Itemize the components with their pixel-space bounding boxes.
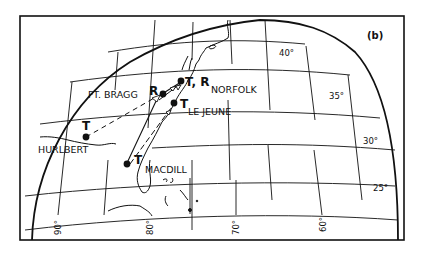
hurlbert-marker-label: T: [82, 119, 91, 133]
lon-70-label: 70°: [231, 220, 241, 235]
hurlbert-label: HURLBERT: [38, 144, 88, 155]
lat-30-label: 30°: [363, 136, 378, 146]
macdill-marker-label: T: [134, 153, 143, 167]
lon-90-label: 90°: [53, 220, 63, 235]
le-jeune-label: LE JEUNE: [188, 106, 231, 117]
marker-macdill: [124, 161, 131, 168]
lon-60-label: 60°: [318, 217, 328, 232]
marker-hurlbert: [83, 134, 90, 141]
map-figure: T, R NORFOLK R FT. BRAGG T LE JEUNE T HU…: [0, 0, 421, 253]
norfolk-marker-label: T, R: [185, 75, 209, 89]
lon-80-label: 80°: [145, 220, 155, 235]
marker-norfolk: [178, 78, 185, 85]
norfolk-label: NORFOLK: [211, 84, 257, 95]
lat-25-label: 25°: [373, 183, 388, 193]
ft-bragg-label: FT. BRAGG: [88, 89, 138, 100]
marker-ft-bragg: [160, 91, 167, 98]
map-frame: [20, 16, 404, 240]
ft-bragg-marker-label: R: [149, 84, 158, 98]
lat-40-label: 40°: [279, 48, 294, 58]
macdill-label: MACDILL: [145, 164, 188, 175]
lat-35-label: 35°: [329, 91, 344, 101]
panel-label: (b): [367, 30, 383, 41]
marker-le-jeune: [171, 100, 178, 107]
